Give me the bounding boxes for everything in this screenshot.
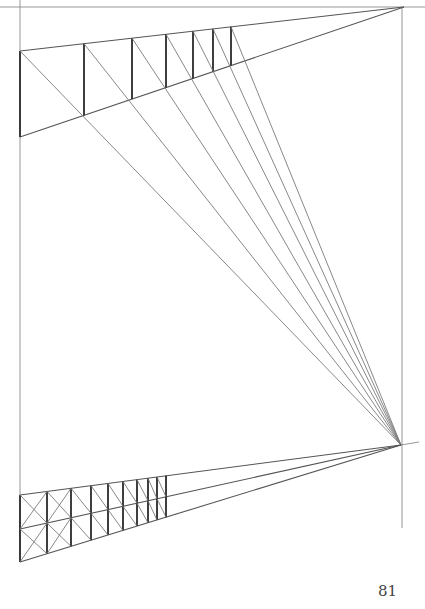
perspective-drawing	[0, 0, 425, 609]
lower-diagonal	[137, 480, 148, 501]
lower-cross-diagonal	[47, 488, 71, 523]
lower-fence	[20, 445, 401, 562]
lower-diagonal	[157, 477, 166, 497]
lower-diagonal	[123, 506, 137, 526]
upper-fence	[20, 7, 404, 445]
upper-top-edge	[20, 7, 404, 51]
lower-diagonal	[71, 518, 91, 540]
lower-diagonal	[108, 483, 123, 506]
lower-diagonal	[137, 503, 148, 522]
lower-diagonal	[20, 529, 47, 554]
lower-diagonal	[123, 481, 137, 503]
upper-diagonal-ray	[84, 44, 401, 445]
upper-diagonal-ray	[132, 38, 401, 445]
upper-bottom-edge	[20, 7, 404, 137]
upper-diagonal-ray	[213, 29, 401, 445]
upper-diagonal-ray	[166, 34, 401, 445]
lower-diagonal	[148, 478, 157, 499]
lower-diagonal	[71, 488, 91, 513]
lower-diagonal	[91, 486, 108, 510]
lower-cross-diagonal	[20, 523, 47, 562]
lower-bottom-edge	[20, 445, 401, 562]
lower-diagonal	[148, 501, 157, 520]
upper-diagonal-ray	[20, 51, 401, 445]
lower-cross-diagonal	[20, 491, 47, 529]
lower-diagonal	[20, 495, 47, 523]
lower-diagonal	[108, 510, 123, 531]
lower-cross-diagonal	[47, 518, 71, 554]
lower-diagonal	[91, 513, 108, 535]
lower-diagonal	[47, 491, 71, 517]
construction-guides	[0, 0, 425, 560]
page-number: 81	[378, 582, 397, 600]
upper-diagonal-ray	[231, 27, 401, 445]
lower-diagonal	[47, 523, 71, 546]
lower-diagonal	[157, 499, 166, 517]
upper-diagonal-ray	[193, 31, 401, 445]
